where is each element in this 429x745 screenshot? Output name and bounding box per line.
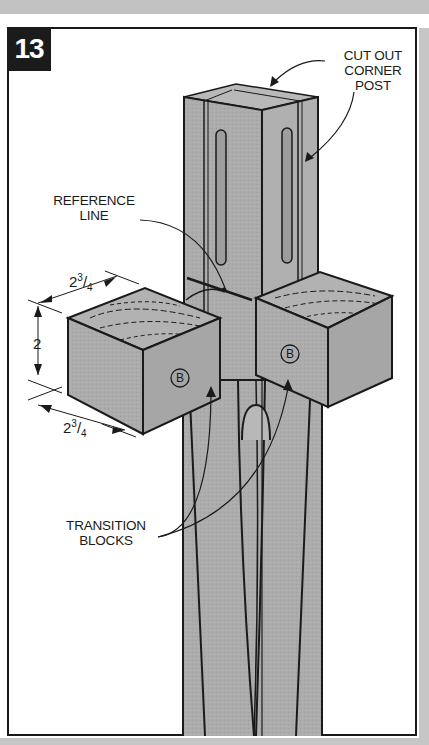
dim-num: 3: [71, 418, 77, 429]
callout-reference-line: REFERENCE LINE: [48, 193, 140, 223]
part-label-right-b: B: [282, 347, 298, 362]
dim-den: 4: [81, 428, 87, 439]
corner-post-illustration: [0, 0, 429, 745]
callout-line: BLOCKS: [55, 533, 157, 548]
dimension-bottom-depth: 23/4: [63, 418, 87, 439]
tapered-leg: [182, 380, 323, 736]
part-letter: B: [176, 371, 184, 385]
figure-number: 13: [14, 33, 43, 65]
part-label-left-b: B: [172, 371, 188, 386]
callout-line: CUT OUT: [333, 48, 413, 63]
dimension-height: 2: [33, 335, 41, 352]
callout-transition-blocks: TRANSITION BLOCKS: [55, 518, 157, 548]
figure-number-badge: 13: [7, 27, 51, 71]
dim-num: 3: [77, 272, 83, 283]
dim-den: 4: [87, 282, 93, 293]
dim-value: 2: [33, 335, 41, 352]
callout-corner-post: CUT OUT CORNER POST: [333, 48, 413, 93]
callout-line: LINE: [48, 208, 140, 223]
dimension-top-width: 23/4: [69, 272, 93, 293]
part-letter: B: [286, 347, 294, 361]
callout-line: CORNER: [333, 63, 413, 78]
callout-line: REFERENCE: [48, 193, 140, 208]
callout-line: POST: [333, 78, 413, 93]
callout-line: TRANSITION: [55, 518, 157, 533]
